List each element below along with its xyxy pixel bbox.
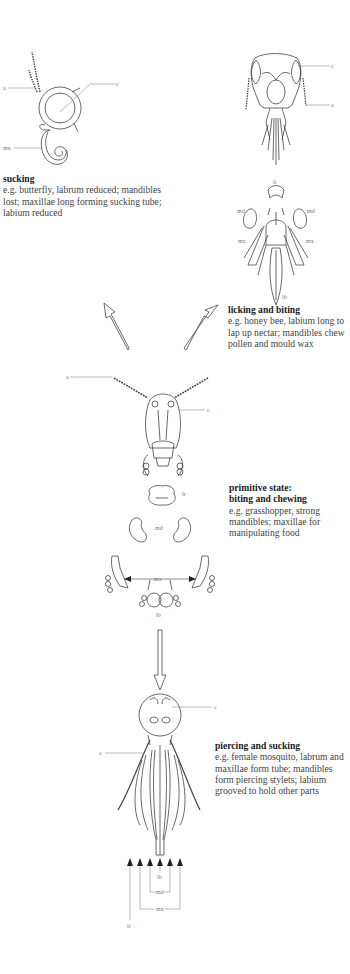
caption-piercing-sucking-title: piercing and sucking	[215, 740, 350, 751]
label-mosquito-mx: mx	[156, 906, 164, 912]
label-mosquito-md: md	[156, 889, 164, 895]
caption-sucking-body: e.g. butterfly, labrum reduced; mandible…	[3, 184, 171, 218]
label-bee-md-right: md	[307, 208, 315, 214]
caption-licking-biting: licking and biting e.g. honey bee, labiu…	[228, 304, 350, 349]
label-butterfly-c: c	[116, 81, 119, 87]
label-grasshopper-a: a	[66, 374, 69, 380]
arrow-to-mosquito	[154, 630, 166, 690]
caption-sucking: sucking e.g. butterfly, labrum reduced; …	[3, 173, 171, 218]
label-bee-mx-right: mx	[306, 238, 314, 244]
caption-biting-chewing-body: e.g. grasshopper, strong mandibles; maxi…	[229, 505, 350, 539]
caption-licking-biting-body: e.g. honey bee, labium long to lap up ne…	[228, 315, 350, 349]
label-mosquito-c: c	[214, 704, 217, 710]
label-bee-mx-left: mx	[238, 238, 246, 244]
caption-primitive-title-line1: primitive state:	[229, 482, 350, 493]
label-grasshopper-c: c	[207, 407, 210, 413]
label-mosquito-lr: lr	[127, 923, 131, 929]
caption-piercing-sucking-body: e.g. female mosquito, labrum and maxilla…	[215, 751, 350, 796]
arrow-to-bee	[184, 305, 218, 350]
label-butterfly-mx: mx	[3, 145, 11, 151]
label-bee-md-left: md	[237, 208, 245, 214]
label-grasshopper-mx: mx	[154, 576, 162, 582]
caption-primitive-title-line2: biting and chewing	[229, 493, 350, 504]
label-bee-c: c	[331, 63, 334, 69]
butterfly-head-drawing	[29, 52, 81, 164]
caption-sucking-title: sucking	[3, 173, 171, 184]
caption-licking-biting-title: licking and biting	[228, 304, 350, 315]
mosquito-head-drawing	[118, 694, 200, 855]
label-mosquito-lb: lb	[157, 874, 162, 880]
label-mosquito-a: a	[99, 750, 102, 756]
grasshopper-head-drawing	[114, 378, 208, 476]
label-bee-lb: lb	[282, 294, 287, 300]
caption-biting-chewing: primitive state: biting and chewing e.g.…	[229, 482, 350, 538]
bee-mouthparts-drawing	[243, 186, 308, 306]
label-grasshopper-md: md	[155, 525, 163, 531]
caption-piercing-sucking: piercing and sucking e.g. female mosquit…	[215, 740, 350, 796]
label-grasshopper-lr: lr	[182, 491, 186, 497]
label-butterfly-a: a	[3, 85, 6, 91]
grasshopper-mouthparts-drawing	[106, 485, 215, 607]
bee-head-drawing	[246, 54, 306, 166]
arrow-to-butterfly	[104, 303, 129, 350]
label-bee-lr: lr	[273, 179, 277, 185]
label-bee-a: a	[331, 102, 334, 108]
label-grasshopper-lb: lb	[156, 612, 161, 618]
